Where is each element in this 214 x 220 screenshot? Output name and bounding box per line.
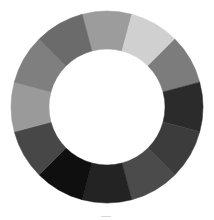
- bottom-mark: [101, 216, 111, 217]
- segmented-color-ring: [0, 0, 214, 220]
